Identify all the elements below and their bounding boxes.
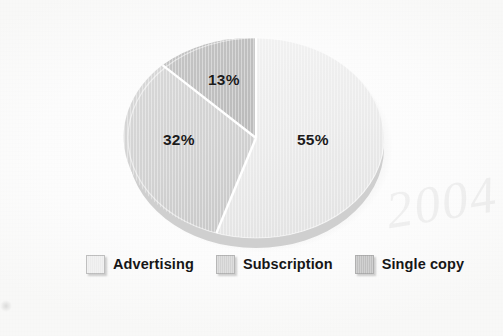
slice-label-advertising: 55%: [297, 131, 329, 149]
legend-swatch-icon-subscription: [216, 255, 235, 274]
legend-label-subscription: Subscription: [243, 256, 333, 272]
legend-item-single-copy[interactable]: Single copy: [355, 255, 464, 274]
legend-swatch-icon-single-copy: [355, 255, 374, 274]
scanned-page: 2004 55% 32% 13% Advertising Subscriptio…: [0, 0, 503, 336]
slice-label-subscription: 32%: [163, 131, 195, 149]
legend-item-subscription[interactable]: Subscription: [216, 255, 333, 274]
background-watermark: 2004: [382, 163, 503, 243]
legend-label-single-copy: Single copy: [382, 256, 464, 272]
pie-chart: 2004 55% 32% 13% Advertising Subscriptio…: [0, 0, 503, 336]
legend-swatch-icon-advertising: [86, 255, 105, 274]
slice-label-single-copy: 13%: [208, 71, 240, 89]
legend-item-advertising[interactable]: Advertising: [86, 255, 194, 274]
pie-graphic: 2004: [118, 22, 398, 252]
pie-svg: [118, 22, 398, 252]
chart-legend: Advertising Subscription Single copy: [86, 250, 426, 278]
legend-label-advertising: Advertising: [113, 256, 194, 272]
